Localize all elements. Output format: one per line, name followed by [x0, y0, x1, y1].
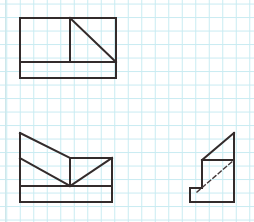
chevron-v-shape-on-base	[20, 133, 112, 202]
rectangle-with-divider-and-diagonal	[20, 18, 116, 78]
right-v-slope	[70, 158, 112, 186]
left-v-slope	[20, 158, 70, 186]
sketch-sheet	[0, 0, 254, 222]
stepped-wedge-with-hidden-line	[190, 133, 234, 202]
diagonal-hypotenuse	[70, 18, 116, 62]
figure-group	[0, 0, 254, 222]
upper-left-slope	[20, 133, 70, 158]
top-slope	[202, 133, 234, 160]
